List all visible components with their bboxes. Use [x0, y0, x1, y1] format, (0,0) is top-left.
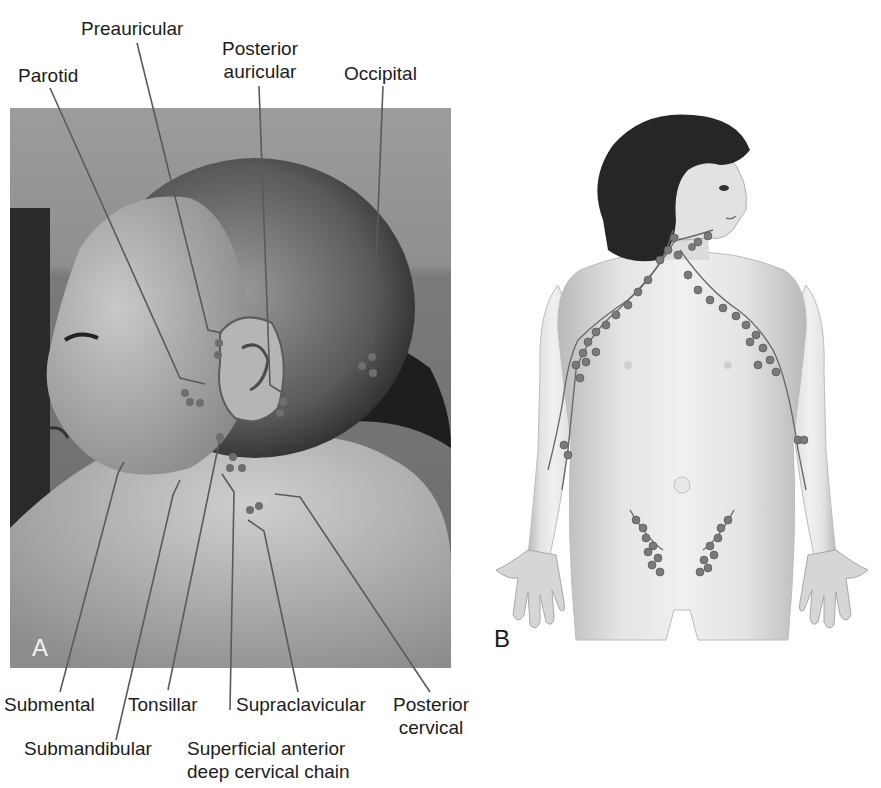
infant-photo-illustration: A — [10, 108, 451, 668]
panel-a-photo: A — [10, 108, 451, 668]
label-parotid: Parotid — [18, 64, 78, 87]
label-submental: Submental — [4, 693, 95, 716]
label-posterior-cervical-line2: cervical — [388, 716, 474, 739]
panel-b-illustration — [488, 110, 873, 650]
label-superficial-anterior-deep-cervical: Superficial anterior deep cervical chain — [187, 737, 350, 783]
panel-letter-a: A — [32, 634, 48, 661]
panel-letter-b: B — [494, 626, 510, 652]
label-preauricular: Preauricular — [81, 17, 183, 40]
label-posterior-auricular-line1: Posterior — [218, 37, 302, 60]
label-superficial-line1: Superficial anterior — [187, 737, 350, 760]
child-lymphatic-illustration — [488, 110, 873, 650]
label-occipital: Occipital — [344, 62, 417, 85]
label-posterior-auricular-line2: auricular — [218, 60, 302, 83]
label-posterior-cervical: Posterior cervical — [388, 693, 474, 739]
label-posterior-auricular: Posterior auricular — [218, 37, 302, 83]
label-posterior-cervical-line1: Posterior — [388, 693, 474, 716]
label-superficial-line2: deep cervical chain — [187, 760, 350, 783]
label-supraclavicular: Supraclavicular — [236, 693, 366, 716]
label-submandibular: Submandibular — [24, 737, 152, 760]
label-tonsillar: Tonsillar — [128, 693, 198, 716]
